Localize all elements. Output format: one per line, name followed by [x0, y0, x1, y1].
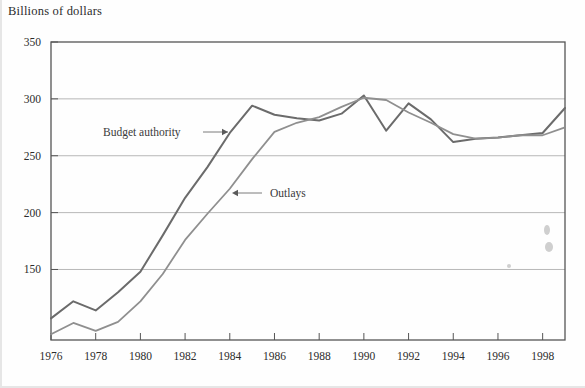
x-tick-label: 1978 [84, 350, 107, 362]
gridlines [51, 99, 565, 270]
annotation-arrowhead [222, 129, 228, 135]
y-tick-label: 200 [24, 207, 42, 219]
scan-artifacts [507, 225, 553, 268]
annotation-arrowhead [232, 190, 238, 196]
x-tick-label: 1986 [263, 350, 286, 362]
x-tick-label: 1994 [442, 350, 465, 362]
x-tick-label: 1980 [129, 350, 152, 362]
annotation-label: Budget authority [103, 126, 181, 139]
y-tick-label: 150 [24, 263, 42, 275]
x-tick-label: 1982 [174, 350, 197, 362]
x-tick-label: 1988 [308, 350, 331, 362]
plot-frame [51, 42, 565, 340]
chart-page: Billions of dollars 150200250300350 1976… [0, 0, 585, 388]
x-tickmarks [51, 333, 543, 340]
series-annotations: Budget authorityOutlays [103, 126, 306, 200]
y-tick-labels: 150200250300350 [24, 36, 58, 275]
y-tick-label: 300 [24, 93, 42, 105]
y-tick-label: 250 [24, 150, 42, 162]
x-tick-label: 1996 [486, 350, 509, 362]
x-tick-label: 1990 [352, 350, 375, 362]
x-tick-label: 1976 [40, 350, 63, 362]
x-tick-label: 1992 [397, 350, 420, 362]
annotation-label: Outlays [270, 187, 306, 200]
x-tick-labels: 1976197819801982198419861988199019921994… [40, 350, 555, 362]
x-tick-label: 1998 [531, 350, 554, 362]
y-tick-label: 350 [24, 36, 42, 48]
x-tick-label: 1984 [218, 350, 241, 362]
line-chart: 150200250300350 197619781980198219841986… [0, 0, 585, 388]
